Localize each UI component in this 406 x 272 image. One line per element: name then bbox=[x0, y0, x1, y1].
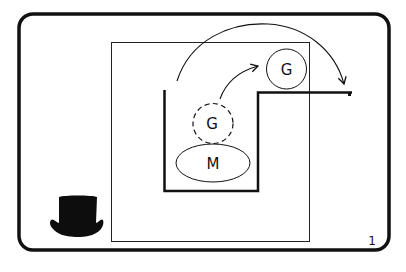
diagram-canvas: M G G 1 bbox=[0, 0, 406, 272]
dashed-circle-g: G bbox=[193, 104, 233, 144]
large-arc-arrow bbox=[177, 24, 344, 84]
dashed-circle-label: G bbox=[206, 115, 218, 133]
page-number: 1 bbox=[368, 234, 376, 248]
solid-circle-g: G bbox=[267, 49, 307, 89]
solid-circle-label: G bbox=[281, 61, 293, 79]
small-curved-arrow bbox=[220, 66, 258, 99]
top-hat-icon bbox=[50, 196, 103, 238]
ellipse-m: M bbox=[176, 144, 250, 182]
stepped-boundary-line bbox=[165, 90, 353, 191]
ellipse-label: M bbox=[207, 155, 220, 173]
line-end-marker bbox=[348, 92, 351, 96]
